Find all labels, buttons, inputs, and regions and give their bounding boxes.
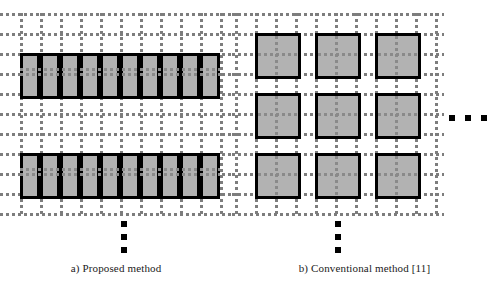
macroblock-strip bbox=[140, 56, 160, 96]
figure-root: a) Proposed method b) Conventional metho… bbox=[0, 0, 497, 290]
macroblock-square bbox=[315, 93, 361, 139]
macroblock-strip bbox=[180, 56, 200, 96]
grid-line-horizontal bbox=[0, 13, 232, 16]
macroblock-strip bbox=[80, 56, 100, 96]
grid-line-horizontal bbox=[0, 213, 232, 216]
macroblock-strip bbox=[160, 56, 180, 96]
ellipsis-dot bbox=[121, 234, 127, 240]
macroblock-strip bbox=[120, 156, 140, 196]
grid-line-vertical bbox=[235, 13, 238, 215]
macroblock-strip bbox=[60, 156, 80, 196]
ellipsis-dot bbox=[335, 247, 341, 253]
macroblock-square bbox=[375, 153, 421, 199]
macroblock-strip bbox=[40, 156, 60, 196]
grid-line-horizontal bbox=[232, 213, 444, 216]
macroblock-strip bbox=[100, 56, 120, 96]
grid-line-vertical bbox=[220, 13, 223, 215]
ellipsis-dot bbox=[335, 221, 341, 227]
vertical-ellipsis-panel-b bbox=[335, 221, 341, 253]
macroblock-square bbox=[375, 93, 421, 139]
grid-line-horizontal bbox=[0, 133, 232, 136]
strip-band-bottom bbox=[20, 196, 220, 199]
macroblock-strip bbox=[100, 156, 120, 196]
caption-panel-a: a) Proposed method bbox=[0, 262, 232, 274]
ellipsis-dot bbox=[481, 115, 487, 121]
macroblock-strip bbox=[20, 156, 40, 196]
macroblock-strip bbox=[20, 56, 40, 96]
macroblock-square bbox=[315, 33, 361, 79]
ellipsis-dot bbox=[335, 234, 341, 240]
grid-line-horizontal bbox=[232, 13, 444, 16]
macroblock-square bbox=[255, 33, 301, 79]
macroblock-square bbox=[255, 93, 301, 139]
macroblock-strip bbox=[80, 156, 100, 196]
macroblock-square bbox=[255, 153, 301, 199]
macroblock-strip bbox=[200, 56, 220, 96]
grid-line-horizontal bbox=[0, 113, 232, 116]
ellipsis-dot bbox=[121, 247, 127, 253]
macroblock-strip bbox=[120, 56, 140, 96]
horizontal-ellipsis bbox=[449, 115, 487, 121]
macroblock-strip bbox=[180, 156, 200, 196]
vertical-ellipsis-panel-a bbox=[121, 221, 127, 253]
panel-conventional-method bbox=[232, 0, 497, 290]
panel-proposed-method bbox=[0, 0, 232, 290]
macroblock-strip bbox=[60, 56, 80, 96]
grid-line-horizontal bbox=[0, 33, 232, 36]
ellipsis-dot bbox=[465, 115, 471, 121]
macroblock-strip bbox=[40, 56, 60, 96]
macroblock-square bbox=[375, 33, 421, 79]
grid-line-vertical bbox=[435, 13, 438, 215]
ellipsis-dot bbox=[449, 115, 455, 121]
macroblock-strip bbox=[140, 156, 160, 196]
ellipsis-dot bbox=[121, 221, 127, 227]
caption-panel-b: b) Conventional method [11] bbox=[232, 262, 497, 274]
macroblock-strip bbox=[160, 156, 180, 196]
strip-band-bottom bbox=[20, 96, 220, 99]
macroblock-square bbox=[315, 153, 361, 199]
macroblock-strip bbox=[200, 156, 220, 196]
